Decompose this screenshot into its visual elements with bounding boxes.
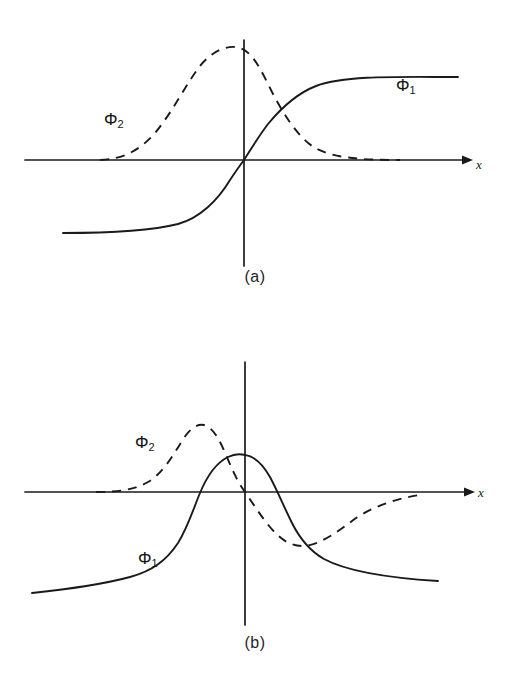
figure-root: Φ2 Φ1 x (a) Φ2 Φ1 x (b): [0, 0, 510, 677]
panel-a-label-phi1: Φ1: [396, 76, 416, 96]
panel-a-label-phi2: Φ2: [104, 110, 124, 130]
panel-a-plot: [0, 0, 510, 340]
panel-b-label-phi2: Φ2: [135, 433, 155, 453]
panel-b-plot: [0, 337, 510, 677]
panel-a: Φ2 Φ1 x (a): [0, 0, 510, 340]
panel-b-label-phi1: Φ1: [138, 549, 158, 569]
panel-a-x-axis: [25, 156, 473, 165]
panel-a-caption: (a): [0, 268, 510, 286]
panel-b: Φ2 Φ1 x (b): [0, 337, 510, 677]
panel-a-x-axis-label: x: [476, 157, 482, 173]
panel-a-curve-phi2: [100, 47, 400, 160]
panel-b-caption: (b): [0, 634, 510, 652]
panel-b-x-axis: [25, 488, 475, 497]
panel-b-x-axis-label: x: [478, 485, 484, 501]
panel-a-curve-phi1: [63, 77, 458, 233]
